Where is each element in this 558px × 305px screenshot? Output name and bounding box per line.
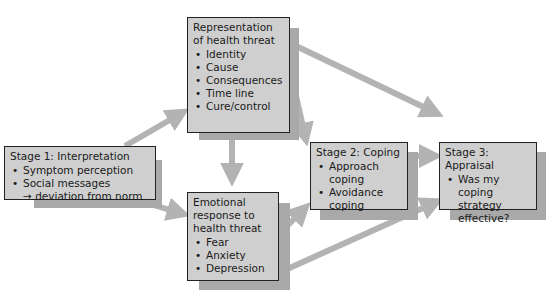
- stage1-item: Social messages: [10, 177, 150, 190]
- stage2-coping-box: Stage 2: Coping Approach coping Avoidanc…: [310, 142, 408, 210]
- stage3-title: Stage 3: Appraisal: [445, 146, 531, 172]
- representation-item: Cause: [193, 61, 284, 74]
- emotional-response-box: Emotional response to health threat Fear…: [187, 192, 279, 281]
- emotional-item: Depression: [193, 262, 273, 275]
- stage1-interpretation-box: Stage 1: Interpretation Symptom percepti…: [4, 146, 156, 200]
- representation-item: Cure/control: [193, 100, 284, 113]
- stage1-title: Stage 1: Interpretation: [10, 150, 150, 163]
- stage2-item: Approach coping: [316, 160, 402, 186]
- emotional-item: Anxiety: [193, 249, 273, 262]
- stage3-item: Was my coping strategy effective?: [445, 173, 531, 225]
- representation-item: Time line: [193, 87, 284, 100]
- arrow-representation-to-stage3: [296, 46, 434, 112]
- representation-title: Representation of health threat: [193, 21, 284, 47]
- representation-item: Identity: [193, 48, 284, 61]
- emotional-title: Emotional response to health threat: [193, 196, 273, 235]
- stage1-subline: → deviation from norm: [10, 190, 150, 203]
- arrow-stage1-to-representation: [125, 114, 180, 146]
- stage1-item: Symptom perception: [10, 164, 150, 177]
- emotional-item: Fear: [193, 236, 273, 249]
- stage2-title: Stage 2: Coping: [316, 146, 402, 159]
- representation-item: Consequences: [193, 74, 284, 87]
- representation-box: Representation of health threat Identity…: [187, 17, 290, 133]
- stage3-appraisal-box: Stage 3: Appraisal Was my coping strateg…: [439, 142, 537, 210]
- stage2-item: Avoidance coping: [316, 186, 402, 212]
- self-regulatory-model-diagram: Stage 1: Interpretation Symptom percepti…: [0, 0, 558, 305]
